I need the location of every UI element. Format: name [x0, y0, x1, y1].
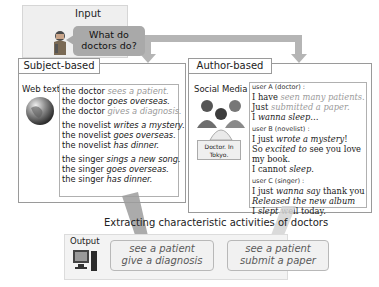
sentence-subject: the doctor: [62, 86, 108, 96]
text-span: …: [310, 112, 318, 122]
post-line: I have seen many patients.: [252, 92, 365, 102]
sentence-subject: the singer: [62, 164, 107, 174]
sentence-subject: the doctor: [62, 106, 108, 116]
text-span: sleep: [289, 164, 311, 174]
result-line-1: see a patient: [228, 243, 328, 255]
post-line: Just submitted a paper.: [252, 102, 365, 112]
sentence-action: has dinner.: [113, 140, 159, 150]
text-span: well today.: [278, 206, 325, 216]
input-arrow-right-stem: [295, 35, 302, 55]
text-span: seen many patients.: [280, 92, 364, 102]
text-span: So: [252, 144, 265, 154]
user-label: user B (novelist) :: [252, 125, 365, 134]
social-posts: user A (doctor) : I have seen many patie…: [252, 83, 365, 216]
web-sentence: the novelist has dinner.: [62, 140, 185, 150]
text-span: Just: [252, 102, 271, 112]
sentence-action: sings a new song.: [107, 154, 181, 164]
output-result-author: see a patient submit a paper: [227, 240, 329, 271]
sentence-subject: the novelist: [62, 130, 113, 140]
web-sentence: the singer goes overseas.: [62, 164, 185, 174]
novelist-group: the novelist writes a mystery. the novel…: [62, 120, 185, 150]
singer-group: the singer sings a new song. the singer …: [62, 154, 185, 184]
web-sentence: the doctor sees a patient.: [62, 86, 185, 96]
text-span: thank you: [320, 186, 364, 196]
sentence-action: goes overseas.: [108, 96, 170, 106]
extract-caption: Extracting characteristic activities of …: [104, 217, 328, 228]
sentence-action: gives a diagnosis.: [108, 106, 182, 116]
user-label: user A (doctor) :: [252, 83, 365, 92]
sentence-action: sees a patient.: [108, 86, 169, 96]
web-sentence: the doctor goes overseas.: [62, 96, 185, 106]
text-span: excited to: [265, 144, 306, 154]
social-media-label: Social Media: [194, 84, 247, 94]
computer-icon: [72, 248, 98, 274]
subject-panel-title: Subject-based: [18, 58, 100, 74]
text-span: my book.: [252, 154, 290, 164]
text-span: Released the new album: [252, 196, 355, 206]
profile-tag: Doctor. In Tokyo.: [197, 140, 241, 160]
result-line-1: see a patient: [111, 243, 213, 255]
post-line: I wanna sleep…: [252, 112, 365, 122]
question-line-1: What do: [73, 29, 145, 40]
arrow-head-author: [291, 54, 307, 63]
text-span: I cannot: [252, 164, 289, 174]
text-span: wanna sleep: [258, 112, 310, 122]
people-icon: [195, 98, 247, 140]
user-c-post: user C (singer) : I just wanna say thank…: [252, 177, 365, 216]
question-bubble: What do doctors do?: [73, 26, 145, 56]
text-span: I just: [252, 134, 276, 144]
text-span: I have: [252, 92, 280, 102]
output-result-subject: see a patient give a diagnosis: [110, 240, 214, 271]
input-box: Input What do doctors do?: [22, 5, 128, 58]
sentence-subject: the singer: [62, 154, 107, 164]
post-line: So excited to see you love: [252, 144, 365, 154]
text-span: see you love: [307, 144, 361, 154]
web-sentence: the novelist writes a mystery.: [62, 120, 185, 130]
post-line: my book.: [252, 154, 365, 164]
web-sentence: the singer has dinner.: [62, 174, 185, 184]
post-line: I just wrote a mystery!: [252, 134, 365, 144]
web-sentence: the singer sings a new song.: [62, 154, 185, 164]
author-panel-title: Author-based: [188, 58, 272, 74]
sentence-action: goes overseas.: [113, 130, 175, 140]
doctor-group: the doctor sees a patient. the doctor go…: [62, 86, 185, 116]
web-text-lines: the doctor sees a patient. the doctor go…: [62, 86, 185, 184]
result-line-2: submit a paper: [228, 255, 328, 267]
input-arrow-left-stem: [144, 35, 151, 55]
input-label: Input: [23, 8, 127, 19]
text-span: I just: [252, 186, 276, 196]
post-line: I cannot sleep.: [252, 164, 365, 174]
sentence-subject: the singer: [62, 174, 107, 184]
text-span: submitted a paper.: [271, 102, 350, 112]
globe-icon: [25, 96, 55, 126]
user-b-post: user B (novelist) : I just wrote a myste…: [252, 125, 365, 174]
text-span: wanna say: [276, 186, 320, 196]
profile-tag-line-2: Tokyo.: [198, 151, 240, 159]
question-line-2: doctors do?: [73, 40, 145, 51]
web-sentence: the doctor gives a diagnosis.: [62, 106, 185, 116]
post-line: I slept well today.: [252, 206, 365, 216]
web-text-label: Web text: [22, 84, 60, 94]
user-a-post: user A (doctor) : I have seen many patie…: [252, 83, 365, 122]
sentence-subject: the novelist: [62, 120, 113, 130]
post-line: Released the new album: [252, 196, 365, 206]
input-arrow-horizontal: [126, 35, 302, 42]
sentence-action: goes overseas.: [107, 164, 169, 174]
text-span: wrote a mystery: [276, 134, 344, 144]
web-sentence: the novelist goes overseas.: [62, 130, 185, 140]
text-span: !: [344, 134, 347, 144]
user-label: user C (singer) :: [252, 177, 365, 186]
sentence-action: writes a mystery.: [113, 120, 185, 130]
profile-tag-line-1: Doctor. In: [198, 143, 240, 151]
sentence-subject: the novelist: [62, 140, 113, 150]
result-line-2: give a diagnosis: [111, 255, 213, 267]
output-label: Output: [70, 236, 100, 246]
text-span: slept: [258, 206, 278, 216]
post-line: I just wanna say thank you: [252, 186, 365, 196]
sentence-action: has dinner.: [107, 174, 153, 184]
sentence-subject: the doctor: [62, 96, 108, 106]
text-span: .: [311, 164, 314, 174]
